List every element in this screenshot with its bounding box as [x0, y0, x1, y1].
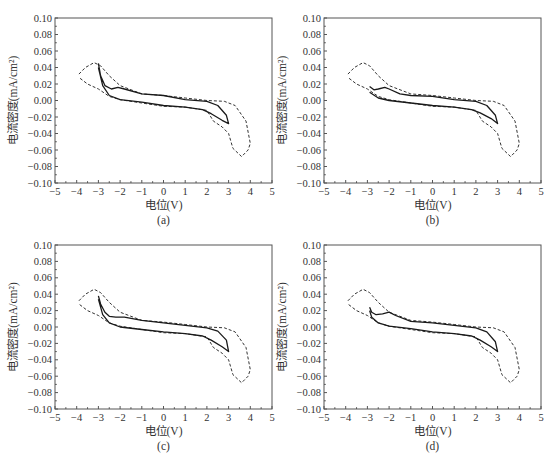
plot-frame [55, 245, 272, 409]
y-tick-label: −0.08 [28, 387, 52, 398]
panel-caption: (d) [426, 440, 440, 453]
chart-panel-a: −5−4−3−2−10123450.100.080.060.040.020.00… [0, 0, 274, 232]
x-tick-label: −4 [340, 186, 352, 197]
chart-panel-c: −5−4−3−2−10123450.100.080.060.040.020.00… [0, 232, 274, 464]
y-tick-label: 0.08 [303, 29, 321, 40]
y-tick-label: 0.06 [34, 272, 52, 283]
y-tick-label: 0.02 [34, 305, 52, 316]
y-tick-label: −0.10 [28, 178, 52, 189]
y-tick-label: 0.04 [34, 289, 53, 300]
x-tick-label: 0 [430, 412, 435, 423]
x-axis-title: 电位(V) [414, 198, 452, 212]
x-tick-label: −4 [71, 412, 83, 423]
y-tick-label: 0.00 [34, 322, 52, 333]
y-tick-label: −0.08 [297, 387, 321, 398]
y-tick-label: −0.04 [28, 354, 53, 365]
x-tick-label: −1 [405, 412, 416, 423]
x-tick-label: 2 [204, 186, 209, 197]
y-tick-label: 0.02 [303, 305, 321, 316]
y-tick-label: 0.08 [34, 256, 52, 267]
plot-frame [324, 245, 541, 409]
y-tick-label: −0.02 [297, 112, 321, 123]
y-tick-label: −0.06 [297, 371, 321, 382]
x-tick-label: 3 [226, 412, 231, 423]
x-tick-label: −2 [115, 412, 126, 423]
x-tick-label: 2 [473, 186, 478, 197]
x-tick-label: 4 [517, 186, 523, 197]
y-tick-label: 0.02 [303, 79, 321, 90]
x-tick-label: 3 [495, 186, 500, 197]
x-axis-title: 电位(V) [145, 424, 183, 438]
x-tick-label: −1 [405, 186, 416, 197]
y-tick-label: 0.08 [303, 256, 321, 267]
x-tick-label: 1 [183, 412, 188, 423]
series-dashed-curve [79, 289, 250, 383]
y-tick-label: −0.06 [28, 145, 52, 156]
x-tick-label: 3 [226, 186, 231, 197]
x-tick-label: −3 [93, 412, 104, 423]
y-tick-label: 0.10 [34, 240, 52, 251]
x-tick-label: 3 [495, 412, 500, 423]
x-tick-label: 0 [430, 186, 435, 197]
plot-frame [324, 18, 541, 183]
panel-caption: (b) [426, 214, 440, 227]
x-tick-label: −1 [136, 186, 147, 197]
y-tick-label: 0.04 [34, 62, 53, 73]
series-solid-curve [370, 87, 498, 124]
panel-caption: (c) [157, 440, 170, 453]
y-tick-label: 0.04 [303, 289, 322, 300]
chart-panel-d: −5−4−3−2−10123450.100.080.060.040.020.00… [270, 232, 544, 464]
y-tick-label: 0.04 [303, 62, 322, 73]
y-tick-label: 0.10 [303, 240, 321, 251]
x-tick-label: 2 [204, 412, 209, 423]
x-tick-label: −3 [362, 412, 373, 423]
y-tick-label: 0.00 [303, 322, 321, 333]
y-tick-label: 0.10 [303, 13, 321, 24]
series-dashed-curve [348, 289, 519, 383]
x-tick-label: −1 [136, 412, 147, 423]
y-tick-label: 0.00 [303, 95, 321, 106]
x-axis-title: 电位(V) [414, 424, 452, 438]
x-tick-label: 0 [161, 412, 166, 423]
y-tick-label: −0.06 [297, 145, 321, 156]
series-dashed-curve [79, 63, 250, 157]
x-tick-label: 4 [248, 412, 254, 423]
y-axis-title: 电流密度(mA/cm²) [6, 56, 20, 146]
y-tick-label: −0.06 [28, 371, 52, 382]
series-dashed-curve [348, 63, 519, 157]
x-tick-label: −4 [340, 412, 352, 423]
series-solid-curve [370, 307, 498, 351]
y-tick-label: −0.08 [28, 161, 52, 172]
series-solid-curve [98, 296, 228, 352]
y-tick-label: 0.02 [34, 79, 52, 90]
x-tick-label: −3 [362, 186, 373, 197]
chart-panel-b: −5−4−3−2−10123450.100.080.060.040.020.00… [270, 0, 544, 232]
y-axis-title: 电流密度(mA/cm²) [6, 282, 20, 372]
x-axis-title: 电位(V) [145, 198, 183, 212]
y-axis-title: 电流密度(mA/cm²) [275, 56, 289, 146]
plot-frame [55, 18, 272, 183]
chart-svg: −5−4−3−2−10123450.100.080.060.040.020.00… [270, 232, 544, 465]
y-tick-label: −0.10 [297, 178, 321, 189]
x-tick-label: 0 [161, 186, 166, 197]
x-tick-label: 4 [248, 186, 254, 197]
x-tick-label: 1 [183, 186, 188, 197]
y-tick-label: −0.08 [297, 161, 321, 172]
x-tick-label: 5 [538, 186, 543, 197]
x-tick-label: −4 [71, 186, 83, 197]
x-tick-label: 4 [517, 412, 523, 423]
x-tick-label: 1 [452, 412, 457, 423]
y-axis-title: 电流密度(mA/cm²) [275, 282, 289, 372]
y-tick-label: −0.02 [28, 338, 52, 349]
x-tick-label: −3 [93, 186, 104, 197]
y-tick-label: −0.04 [297, 354, 322, 365]
x-tick-label: −2 [384, 412, 395, 423]
y-tick-label: −0.02 [297, 338, 321, 349]
chart-svg: −5−4−3−2−10123450.100.080.060.040.020.00… [0, 0, 274, 232]
y-tick-label: 0.00 [34, 95, 52, 106]
y-tick-label: 0.06 [303, 272, 321, 283]
y-tick-label: 0.06 [303, 46, 321, 57]
y-tick-label: 0.10 [34, 13, 52, 24]
y-tick-label: −0.04 [297, 128, 322, 139]
y-tick-label: 0.06 [34, 46, 52, 57]
